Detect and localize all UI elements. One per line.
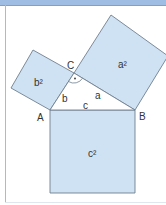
side-label-a: a [95, 90, 101, 101]
right-angle-dot [74, 78, 76, 80]
vertex-label-a: A [37, 112, 44, 123]
vertex-label-b: B [139, 111, 146, 122]
side-label-b: b [62, 93, 68, 104]
square-label-c2: c² [88, 148, 97, 159]
square-label-b2: b² [34, 77, 44, 88]
square-label-a2: a² [118, 59, 128, 70]
side-label-c: c [83, 100, 88, 111]
pythagoras-diagram: A B C b a c a² b² c² [0, 0, 166, 205]
vertex-label-c: C [67, 60, 74, 71]
